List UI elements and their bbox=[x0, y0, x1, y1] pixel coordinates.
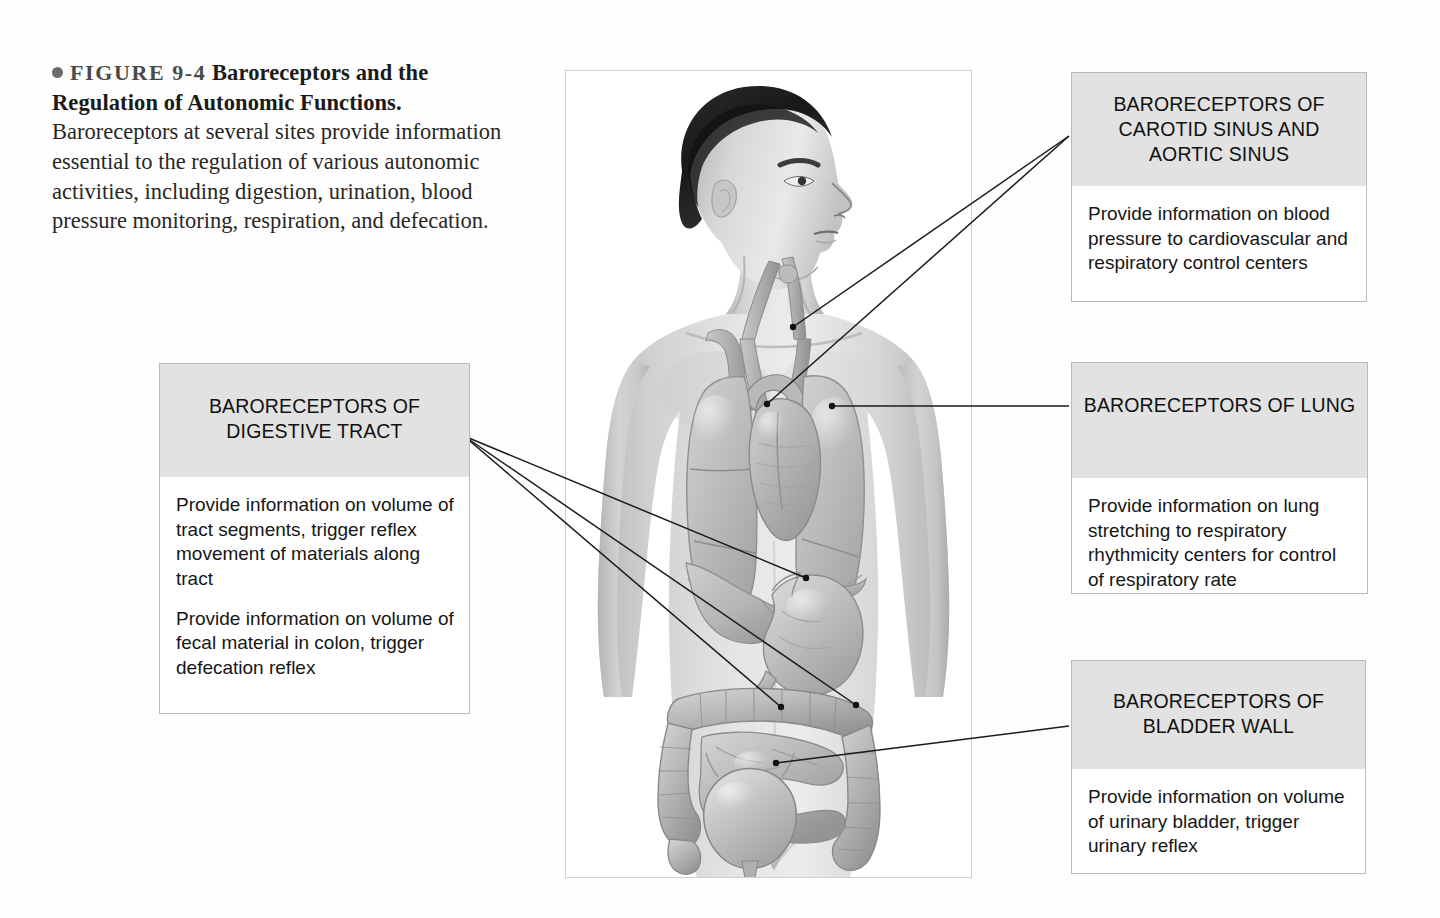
bullet-icon bbox=[52, 67, 63, 78]
label-body-text-carotid: Provide information on blood pressure to… bbox=[1088, 202, 1352, 276]
label-box-digestive-tract: BARORECEPTORS OF DIGESTIVE TRACT Provide… bbox=[159, 363, 470, 714]
label-body-carotid: Provide information on blood pressure to… bbox=[1072, 186, 1366, 301]
label-body-text-lung: Provide information on lung stretching t… bbox=[1088, 494, 1353, 593]
anatomy-illustration bbox=[566, 71, 972, 878]
figure-body-text: Baroreceptors at several sites provide i… bbox=[52, 119, 501, 233]
figure-caption: FIGURE 9-4 Baroreceptors and the Regulat… bbox=[52, 58, 508, 236]
figure-page: FIGURE 9-4 Baroreceptors and the Regulat… bbox=[0, 0, 1440, 918]
label-heading-bladder: BARORECEPTORS OF BLADDER WALL bbox=[1072, 661, 1365, 769]
label-heading-carotid: BARORECEPTORS OF CAROTID SINUS AND AORTI… bbox=[1072, 73, 1366, 186]
label-body-digestive: Provide information on volume of tract s… bbox=[160, 477, 469, 713]
label-heading-digestive: BARORECEPTORS OF DIGESTIVE TRACT bbox=[160, 364, 469, 477]
label-box-carotid-aortic-sinus: BARORECEPTORS OF CAROTID SINUS AND AORTI… bbox=[1071, 72, 1367, 302]
label-body-text-digestive-2: Provide information on volume of fecal m… bbox=[176, 607, 455, 681]
figure-number: FIGURE 9-4 bbox=[70, 60, 206, 85]
anatomy-illustration-frame bbox=[565, 70, 972, 878]
label-body-bladder: Provide information on volume of urinary… bbox=[1072, 769, 1365, 873]
label-box-bladder-wall: BARORECEPTORS OF BLADDER WALL Provide in… bbox=[1071, 660, 1366, 874]
label-body-lung: Provide information on lung stretching t… bbox=[1072, 478, 1367, 593]
label-body-text-bladder: Provide information on volume of urinary… bbox=[1088, 785, 1351, 859]
label-body-text-digestive-1: Provide information on volume of tract s… bbox=[176, 493, 455, 592]
label-box-lung: BARORECEPTORS OF LUNG Provide informatio… bbox=[1071, 362, 1368, 594]
label-heading-lung: BARORECEPTORS OF LUNG bbox=[1072, 363, 1367, 478]
